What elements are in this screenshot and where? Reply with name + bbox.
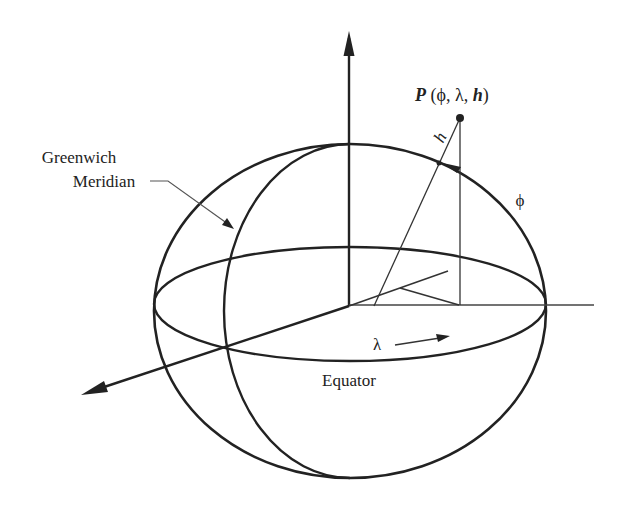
lambda-arrowhead	[436, 334, 450, 342]
equator-label: Equator	[322, 371, 376, 390]
point-p-label: P (ϕ, λ, h)	[414, 85, 489, 106]
greenwich-label-line1: Greenwich	[42, 148, 117, 167]
h-label: h	[430, 129, 451, 145]
geodetic-ellipsoid-diagram: Greenwich Meridian Equator λ ϕ h P (ϕ, λ…	[0, 0, 624, 509]
phi-label: ϕ	[516, 191, 525, 210]
x-axis	[92, 306, 349, 391]
lambda-arrow-line	[395, 338, 440, 345]
foot-connector-line	[400, 288, 459, 305]
surface-point-marker	[437, 161, 442, 166]
point-p-marker	[456, 114, 464, 122]
x-axis-arrowhead	[81, 381, 108, 395]
longitude-radial-line	[349, 271, 448, 306]
greenwich-leader-arrowhead	[222, 218, 234, 229]
point-p-coords-close: )	[483, 85, 489, 106]
point-p-coords-open: (ϕ, λ,	[426, 85, 473, 106]
point-p-height: h	[473, 85, 483, 105]
lambda-label: λ	[373, 335, 382, 354]
z-axis-arrowhead	[344, 31, 355, 56]
greenwich-label-line2: Meridian	[73, 172, 136, 191]
